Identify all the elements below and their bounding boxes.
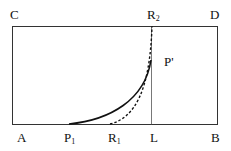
label-r2: R2 xyxy=(147,7,160,23)
label-d: D xyxy=(210,7,219,22)
diagram-canvas: C R2 D P' A P1 R1 L B xyxy=(0,0,231,151)
solid-curve-p1-pprime xyxy=(69,60,151,124)
label-p1: P1 xyxy=(64,130,75,146)
label-a: A xyxy=(17,130,27,145)
label-r1: R1 xyxy=(108,130,121,146)
label-pprime: P' xyxy=(164,54,174,69)
label-b: B xyxy=(211,130,220,145)
label-l: L xyxy=(150,130,158,145)
label-c: C xyxy=(10,7,19,22)
